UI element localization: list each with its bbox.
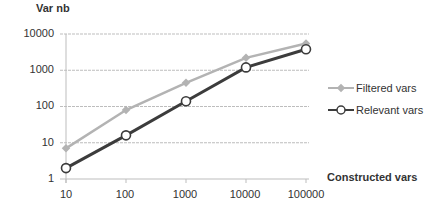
legend-label: Filtered vars <box>356 82 417 94</box>
relevant-marker-icon <box>328 104 354 116</box>
chart: Var nb 10000 1000 100 10 1 10 100 1000 1… <box>0 0 446 213</box>
legend-item-relevant: Relevant vars <box>328 99 423 121</box>
filtered-marker-icon <box>328 83 354 93</box>
legend-item-filtered: Filtered vars <box>328 77 423 99</box>
legend-label: Relevant vars <box>356 104 423 116</box>
legend: Filtered vars Relevant vars <box>328 77 423 121</box>
